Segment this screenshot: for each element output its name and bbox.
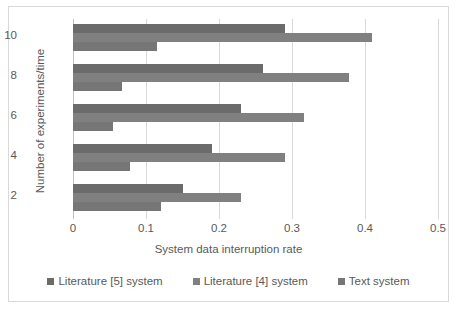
legend-label: Literature [4] system <box>204 275 308 287</box>
legend-item-2[interactable]: Text system <box>338 275 410 287</box>
bar-10-series-0[interactable] <box>73 24 285 33</box>
bar-4-series-0[interactable] <box>73 144 212 153</box>
bar-group-4 <box>73 144 438 171</box>
legend-item-1[interactable]: Literature [4] system <box>193 275 308 287</box>
x-axis-tick-labels: 00.10.20.30.40.5 <box>73 222 438 238</box>
y-tick-label-6: 6 <box>0 109 17 121</box>
x-tick-label-0.1: 0.1 <box>126 222 166 234</box>
bar-group-8 <box>73 64 438 91</box>
legend-swatch-icon <box>193 278 200 285</box>
bar-group-6 <box>73 104 438 131</box>
bar-6-series-2[interactable] <box>73 122 113 131</box>
y-tick-label-8: 8 <box>0 69 17 81</box>
bar-8-series-0[interactable] <box>73 64 263 73</box>
gridline-0.5 <box>438 19 439 219</box>
chart-legend: Literature [5] systemLiterature [4] syst… <box>9 275 448 287</box>
x-tick-label-0.2: 0.2 <box>199 222 239 234</box>
y-axis-title: Number of experiments/time <box>34 26 46 216</box>
x-tick-label-0.3: 0.3 <box>272 222 312 234</box>
x-tick-label-0.4: 0.4 <box>345 222 385 234</box>
x-tick-label-0: 0 <box>53 222 93 234</box>
bar-8-series-1[interactable] <box>73 73 349 82</box>
bar-4-series-1[interactable] <box>73 153 285 162</box>
plot-area <box>73 19 438 219</box>
legend-label: Literature [5] system <box>58 275 162 287</box>
y-tick-label-2: 2 <box>0 189 17 201</box>
bar-10-series-2[interactable] <box>73 42 157 51</box>
legend-swatch-icon <box>47 278 54 285</box>
bar-group-10 <box>73 24 438 51</box>
bar-group-2 <box>73 184 438 211</box>
bar-10-series-1[interactable] <box>73 33 372 42</box>
bar-2-series-0[interactable] <box>73 184 183 193</box>
chart-frame: Number of experiments/time 246810 00.10.… <box>8 6 449 302</box>
bar-6-series-0[interactable] <box>73 104 241 113</box>
x-tick-label-0.5: 0.5 <box>418 222 458 234</box>
legend-swatch-icon <box>338 278 345 285</box>
legend-item-0[interactable]: Literature [5] system <box>47 275 162 287</box>
bar-2-series-2[interactable] <box>73 202 161 211</box>
bar-8-series-2[interactable] <box>73 82 122 91</box>
x-axis-title: System data interruption rate <box>9 243 448 255</box>
bar-4-series-2[interactable] <box>73 162 130 171</box>
bar-2-series-1[interactable] <box>73 193 241 202</box>
y-tick-label-4: 4 <box>0 149 17 161</box>
legend-label: Text system <box>349 275 410 287</box>
y-tick-label-10: 10 <box>0 29 17 41</box>
bar-6-series-1[interactable] <box>73 113 304 122</box>
